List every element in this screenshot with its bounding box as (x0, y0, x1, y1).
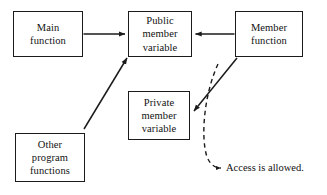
node-main-function-line-2: function (30, 34, 66, 47)
node-other-program-functions-line-1: Other (38, 138, 62, 151)
access-allowed-caption: Access is allowed. (226, 161, 304, 174)
node-private-member-variable-line-1: Private (144, 96, 174, 109)
edge-other-to-public (84, 58, 127, 129)
node-private-member-variable-line-3: variable (142, 122, 177, 135)
node-private-member-variable-line-2: member (141, 109, 176, 122)
node-other-program-functions-line-3: functions (30, 164, 70, 177)
node-public-member-variable-line-2: member (142, 27, 177, 40)
node-public-member-variable-line-1: Public (146, 14, 173, 27)
node-other-program-functions-line-2: program (32, 151, 68, 164)
node-public-member-variable-line-3: variable (143, 41, 178, 54)
node-main-function[interactable]: Main function (13, 11, 83, 57)
node-public-member-variable[interactable]: Public member variable (128, 11, 192, 57)
diagram-canvas: Main function Public member variable Mem… (0, 0, 327, 195)
node-private-member-variable[interactable]: Private member variable (128, 91, 190, 140)
node-main-function-line-1: Main (37, 21, 60, 34)
node-member-function-line-1: Member (251, 21, 287, 34)
edge-access-annotation-leader (204, 64, 221, 168)
node-member-function[interactable]: Member function (235, 11, 303, 57)
node-member-function-line-2: function (251, 34, 287, 47)
edge-member-function-to-private (194, 58, 237, 111)
node-other-program-functions[interactable]: Other program functions (15, 133, 85, 182)
